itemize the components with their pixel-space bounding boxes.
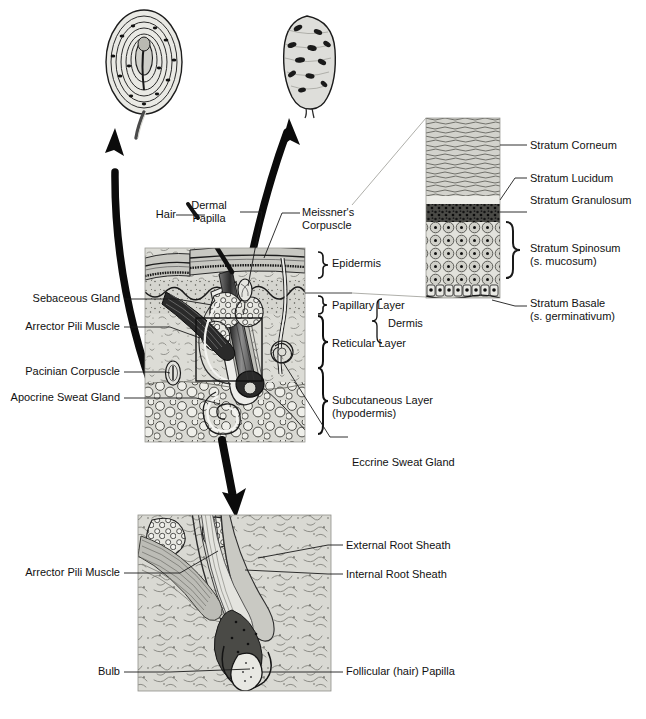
meissners-corpuscle-drawing bbox=[284, 16, 336, 118]
label-subcutaneous-layer: Subcutaneous Layer (hypodermis) bbox=[332, 394, 452, 419]
label-dermal-papilla: Dermal Papilla bbox=[180, 199, 238, 224]
label-eccrine-sweat-gland: Eccrine Sweat Gland bbox=[352, 456, 482, 469]
label-internal-root-sheath: Internal Root Sheath bbox=[346, 568, 486, 581]
pacinian-corpuscle-in-dermis bbox=[166, 361, 181, 385]
label-reticular-layer: Reticular Layer bbox=[332, 337, 432, 350]
pacinian-corpuscle-drawing bbox=[106, 10, 182, 138]
label-stratum-corneum: Stratum Corneum bbox=[530, 139, 646, 152]
label-stratum-spinosum: Stratum Spinosum (s. mucosum) bbox=[530, 242, 646, 267]
label-arrector-pili-muscle: Arrector Pili Muscle bbox=[0, 320, 120, 333]
label-arrector-pili-muscle-follicle: Arrector Pili Muscle bbox=[0, 566, 120, 579]
label-bulb: Bulb bbox=[0, 665, 120, 678]
label-epidermis: Epidermis bbox=[332, 257, 422, 270]
epidermis-detail-drawing bbox=[426, 118, 500, 299]
label-pacinian-corpuscle: Pacinian Corpuscle bbox=[0, 365, 120, 378]
label-stratum-granulosum: Stratum Granulosum bbox=[530, 194, 646, 207]
label-meissners-corpuscle: Meissner's Corpuscle bbox=[302, 206, 380, 231]
follicular-papilla-drawing bbox=[231, 653, 262, 691]
label-stratum-lucidum: Stratum Lucidum bbox=[530, 172, 646, 185]
diagram-artwork bbox=[0, 0, 646, 719]
label-stratum-basale: Stratum Basale (s. germinativum) bbox=[530, 297, 646, 322]
arrow-to-follicle-panel bbox=[222, 440, 246, 518]
label-apocrine-sweat-gland: Apocrine Sweat Gland bbox=[0, 391, 120, 404]
hair-follicle-detail-drawing bbox=[138, 512, 331, 691]
label-hair: Hair bbox=[126, 208, 176, 221]
figure-canvas: Sebaceous Gland Arrector Pili Muscle Pac… bbox=[0, 0, 646, 719]
label-papillary-layer: Papillary Layer bbox=[332, 299, 432, 312]
label-follicular-hair-papilla: Follicular (hair) Papilla bbox=[346, 665, 496, 678]
label-dermis: Dermis bbox=[388, 317, 448, 330]
label-external-root-sheath: External Root Sheath bbox=[346, 539, 486, 552]
label-sebaceous-gland: Sebaceous Gland bbox=[0, 292, 120, 305]
skin-cross-section-drawing bbox=[145, 218, 305, 442]
